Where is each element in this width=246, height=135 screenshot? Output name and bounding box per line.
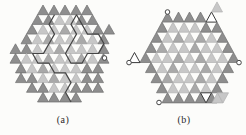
lattice-triangle xyxy=(32,34,43,44)
lattice-triangle xyxy=(184,32,195,42)
lattice-triangle xyxy=(212,63,223,73)
lattice-triangle xyxy=(151,52,162,62)
lattice-triangle xyxy=(162,73,173,83)
lattice-triangle xyxy=(87,34,98,44)
lattice-triangle xyxy=(32,44,43,54)
lattice-triangle xyxy=(206,52,217,62)
defect-circle xyxy=(102,56,107,61)
lattice-triangle xyxy=(38,83,49,93)
lattice-triangle xyxy=(195,12,206,22)
lattice-triangle xyxy=(60,5,71,15)
lattice-triangle xyxy=(27,24,38,34)
lattice-triangle xyxy=(184,52,195,62)
lattice-triangle xyxy=(162,52,173,62)
lattice-triangle xyxy=(195,32,206,42)
lattice-triangle xyxy=(49,92,60,102)
figure-b-caption: (b) xyxy=(164,114,204,125)
lattice-triangle xyxy=(151,32,162,42)
lattice-triangle xyxy=(146,63,157,73)
defect-circle xyxy=(127,60,132,65)
lattice-triangle xyxy=(71,73,82,83)
lattice-triangle xyxy=(151,73,162,83)
lattice-triangle xyxy=(49,83,60,93)
lattice-triangle xyxy=(217,52,228,62)
lattice-triangle xyxy=(38,73,49,83)
lattice-triangle xyxy=(168,22,179,32)
lattice-triangle xyxy=(179,42,190,52)
lattice-triangle xyxy=(195,73,206,83)
lattice-triangle xyxy=(217,32,228,42)
lattice-triangle xyxy=(38,24,49,34)
lattice-triangle xyxy=(184,12,195,22)
lattice-triangle xyxy=(173,93,184,103)
lattice-triangle xyxy=(49,73,60,83)
lattice-triangle xyxy=(27,63,38,73)
lattice-triangle xyxy=(173,12,184,22)
lattice-triangle xyxy=(21,54,32,64)
lattice-triangle xyxy=(54,54,65,64)
lattice-triangle xyxy=(140,52,151,62)
lattice-triangle xyxy=(93,73,104,83)
lattice-triangle xyxy=(173,73,184,83)
lattice-triangle xyxy=(60,24,71,34)
lattice-triangle xyxy=(184,93,195,103)
lattice-triangle xyxy=(54,34,65,44)
lattice-triangle xyxy=(157,83,168,93)
displaced-triangle xyxy=(212,2,223,12)
lattice-triangle xyxy=(60,63,71,73)
lattice-triangle xyxy=(27,73,38,83)
lattice-triangle xyxy=(184,73,195,83)
lattice-triangle xyxy=(93,63,104,73)
lattice-triangle xyxy=(82,5,93,15)
lattice-triangle xyxy=(38,5,49,15)
lattice-triangle xyxy=(212,22,223,32)
lattice-triangle xyxy=(82,83,93,93)
lattice-triangle xyxy=(173,52,184,62)
lattice-triangle xyxy=(201,22,212,32)
figure-panel: (a) (b) xyxy=(0,0,246,135)
lattice-triangle xyxy=(179,22,190,32)
lattice-triangle xyxy=(173,32,184,42)
lattice-triangle xyxy=(10,54,21,64)
lattice-triangle xyxy=(190,83,201,93)
lattice-triangle xyxy=(87,54,98,64)
lattice-triangle xyxy=(71,5,82,15)
lattice-triangle xyxy=(201,42,212,52)
lattice-triangle xyxy=(16,63,27,73)
lattice-triangle xyxy=(223,63,234,73)
lattice-triangle xyxy=(27,83,38,93)
lattice-triangle xyxy=(38,92,49,102)
lattice-triangle xyxy=(217,73,228,83)
lattice-triangle xyxy=(10,44,21,54)
lattice-triangle xyxy=(179,63,190,73)
lattice-triangle xyxy=(223,42,234,52)
lattice-triangle xyxy=(201,83,212,93)
lattice-triangle xyxy=(206,12,217,22)
lattice-triangle xyxy=(54,44,65,54)
lattice-triangle xyxy=(201,63,212,73)
lattice-triangle xyxy=(87,15,98,25)
lattice-triangle xyxy=(162,93,173,103)
lattice-triangle xyxy=(162,32,173,42)
lattice-triangle xyxy=(54,15,65,25)
lattice-triangle xyxy=(157,22,168,32)
lattice-triangle xyxy=(16,73,27,83)
lattice-triangle xyxy=(190,22,201,32)
defect-circle xyxy=(157,100,162,105)
lattice-triangle xyxy=(212,42,223,52)
lattice-triangle xyxy=(157,42,168,52)
lattice-triangle xyxy=(206,73,217,83)
defect-circle xyxy=(237,60,242,65)
lattice-triangle xyxy=(157,63,168,73)
lattice-triangle xyxy=(38,63,49,73)
lattice-triangle xyxy=(195,52,206,62)
lattice-triangle xyxy=(71,83,82,93)
lattice-triangle xyxy=(179,83,190,93)
lattice-triangle xyxy=(93,83,104,93)
lattice-triangle xyxy=(21,34,32,44)
lattice-triangle xyxy=(168,63,179,73)
lattice-triangle xyxy=(104,24,115,34)
lattice-triangle xyxy=(190,42,201,52)
lattice-triangle xyxy=(43,54,54,64)
lattice-triangle xyxy=(206,32,217,42)
